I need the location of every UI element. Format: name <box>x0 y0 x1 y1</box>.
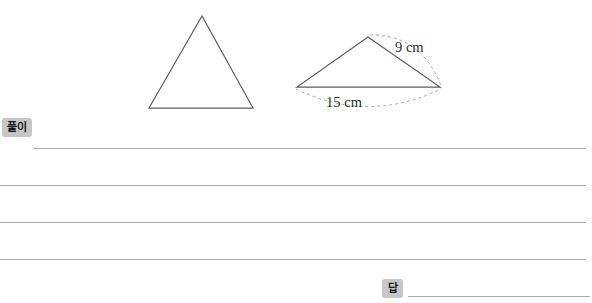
answer-label-badge: 답 <box>382 279 403 298</box>
base-length-label: 15 cm <box>326 94 363 110</box>
solution-write-line-4[interactable] <box>0 259 586 260</box>
solution-write-line-3[interactable] <box>0 222 586 223</box>
labeled-triangle: 9 cm 15 cm <box>296 35 441 110</box>
plain-triangle-outline <box>149 16 253 108</box>
solution-write-line-1[interactable] <box>33 148 586 149</box>
solution-label-badge: 풀이 <box>2 118 32 137</box>
solution-write-line-2[interactable] <box>0 185 586 186</box>
worksheet-page: 9 cm 15 cm 풀이 답 <box>0 0 592 303</box>
geometry-figures: 9 cm 15 cm <box>0 0 592 303</box>
answer-write-line[interactable] <box>408 296 590 297</box>
slant-length-label: 9 cm <box>395 39 424 55</box>
base-measure-arc <box>296 89 441 107</box>
plain-triangle <box>149 16 253 108</box>
